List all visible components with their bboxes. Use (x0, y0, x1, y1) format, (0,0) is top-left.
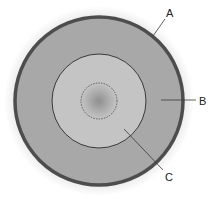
concentric-layers-diagram: A B C (0, 0, 222, 199)
label-b: B (199, 95, 206, 107)
label-a: A (166, 7, 174, 19)
label-c: C (165, 171, 173, 183)
